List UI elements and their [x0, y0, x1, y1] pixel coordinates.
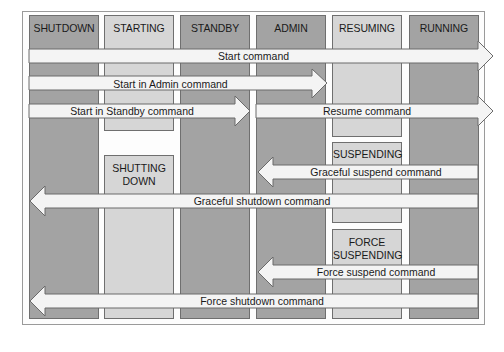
- arrow-resume-command: Resume command: [256, 96, 494, 126]
- arrow-label-force-shutdown-command: Force shutdown command: [45, 286, 479, 316]
- arrow-force-shutdown-command: Force shutdown command: [29, 286, 479, 316]
- arrow-graceful-suspend-command: Graceful suspend command: [257, 157, 479, 187]
- arrow-label-start-command: Start command: [29, 41, 478, 71]
- column-label-running: RUNNING: [410, 22, 478, 34]
- column-label-resuming: RESUMING: [333, 22, 401, 34]
- arrow-graceful-shutdown-command: Graceful shutdown command: [29, 186, 479, 216]
- column-label-shutdown: SHUTDOWN: [30, 22, 98, 34]
- column-label-standby: STANDBY: [181, 22, 249, 34]
- state-label-force-suspending-line1: FORCE: [333, 236, 401, 249]
- arrow-label-resume-command: Resume command: [256, 96, 478, 126]
- arrow-force-suspend-command: Force suspend command: [257, 257, 479, 287]
- state-label-shutting-down-line1: SHUTTING: [105, 162, 173, 175]
- arrow-start-in-admin-command: Start in Admin command: [29, 69, 329, 99]
- arrow-label-start-in-admin-command: Start in Admin command: [29, 69, 312, 99]
- column-label-starting: STARTING: [105, 22, 173, 34]
- column-label-admin: ADMIN: [257, 22, 325, 34]
- arrow-start-command: Start command: [29, 41, 494, 71]
- arrow-label-graceful-suspend-command: Graceful suspend command: [273, 157, 479, 187]
- arrow-label-force-suspend-command: Force suspend command: [273, 257, 479, 287]
- arrow-start-in-standby-command: Start in Standby command: [29, 96, 252, 126]
- arrow-label-start-in-standby-command: Start in Standby command: [29, 96, 235, 126]
- arrow-label-graceful-shutdown-command: Graceful shutdown command: [45, 186, 479, 216]
